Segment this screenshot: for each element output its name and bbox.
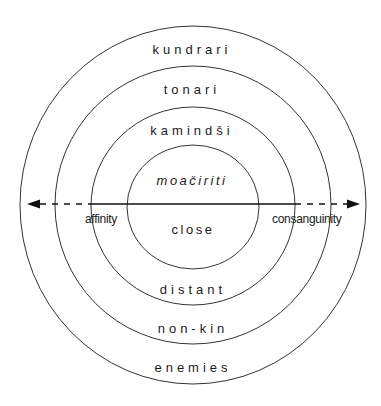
ring-label-kundrari: kundrari bbox=[153, 42, 232, 57]
arrow-left-icon bbox=[27, 200, 40, 209]
ring-label-moaciriti: moačiriti bbox=[157, 173, 228, 188]
ring-label-close: close bbox=[172, 222, 215, 237]
ring-label-non-kin: non-kin bbox=[158, 321, 229, 336]
axis-label-affinity: affinity bbox=[85, 212, 117, 226]
ring-label-enemies: enemies bbox=[154, 360, 231, 375]
axis-label-consanguinity: consanguinity bbox=[272, 212, 342, 226]
ring-inner bbox=[127, 145, 259, 269]
arrow-right-icon bbox=[347, 200, 360, 209]
ring-second bbox=[55, 66, 331, 344]
ring-label-distant: distant bbox=[160, 282, 226, 297]
kinship-concentric-diagram: kundrari tonari kamindši moačiriti close… bbox=[0, 0, 381, 406]
ring-label-tonari: tonari bbox=[164, 82, 221, 97]
ring-label-kamindsi: kamindši bbox=[150, 123, 233, 138]
